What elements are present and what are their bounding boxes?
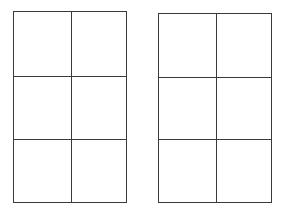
grid-column-divider xyxy=(71,12,72,202)
left-grid xyxy=(13,11,127,203)
grid-row-divider xyxy=(14,76,126,77)
grid-row-divider xyxy=(159,139,271,140)
grid-row-divider xyxy=(159,77,271,78)
right-grid xyxy=(158,13,272,203)
grid-column-divider xyxy=(216,14,217,202)
grid-row-divider xyxy=(14,139,126,140)
